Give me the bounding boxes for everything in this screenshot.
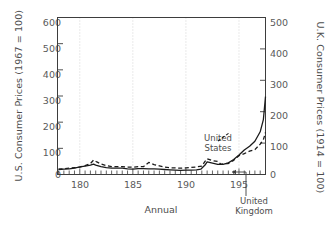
us-leader-line (218, 133, 229, 141)
chart-container: U.S. Consumer Prices (1967 = 100) U.K. C… (0, 0, 333, 227)
gridlines (80, 18, 239, 175)
series-line-united-states (59, 132, 266, 169)
axis-major-ticks (58, 18, 266, 175)
plot-frame (58, 18, 266, 175)
plot-area (0, 0, 333, 227)
uk-leader-line (232, 172, 246, 196)
